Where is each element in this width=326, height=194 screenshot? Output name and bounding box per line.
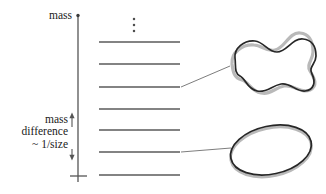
mass-difference-line-3: ~ 1/size (0, 138, 68, 150)
mass-difference-annotation: mass difference ~ 1/size (0, 113, 68, 150)
connector-to-excited-string (181, 66, 230, 87)
connector-to-ground-string (181, 148, 231, 152)
string-mass-spectrum-figure: mass mass difference ~ 1/size (0, 0, 326, 194)
diagram-canvas (0, 0, 326, 194)
excited-string-loop (232, 33, 316, 93)
vertical-ellipsis-icon (133, 18, 136, 33)
mass-axis-top-tick-icon (76, 14, 79, 17)
mass-difference-arrow-icon (69, 113, 74, 161)
mass-axis-label: mass (0, 9, 72, 21)
mass-difference-line-1: mass (0, 113, 68, 125)
mass-difference-line-2: difference (0, 125, 68, 137)
mass-level-lines-group (99, 42, 180, 175)
connectors-group (181, 66, 231, 152)
ground-state-string-loop (226, 118, 316, 184)
